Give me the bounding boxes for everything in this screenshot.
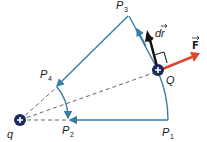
test-charge-Q — [152, 64, 164, 76]
label-dr: dr — [155, 24, 167, 39]
svg-text:F: F — [192, 40, 199, 51]
label-p3: P 3 — [116, 0, 128, 13]
svg-text:P: P — [116, 0, 124, 11]
svg-text:2: 2 — [70, 131, 74, 138]
label-q: q — [7, 128, 14, 140]
label-F: F — [192, 36, 199, 51]
svg-text:P: P — [40, 68, 48, 80]
svg-text:P: P — [62, 124, 70, 136]
source-charge-q — [14, 114, 26, 126]
svg-text:1: 1 — [170, 133, 174, 140]
svg-text:dr: dr — [155, 27, 166, 39]
label-Q: Q — [166, 74, 175, 86]
label-p1: P 1 — [162, 126, 174, 140]
label-p2: P 2 — [62, 124, 74, 138]
svg-text:4: 4 — [48, 75, 52, 82]
svg-text:P: P — [162, 126, 170, 138]
label-p4: P 4 — [40, 68, 52, 82]
diagram-canvas: q Q P 1 P 2 P 3 P 4 dr F — [0, 0, 207, 142]
svg-text:3: 3 — [124, 6, 128, 13]
closed-path — [57, 16, 168, 120]
